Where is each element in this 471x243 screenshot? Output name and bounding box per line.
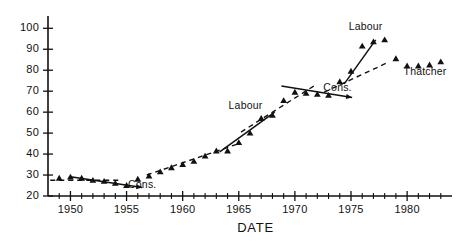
data-point-marker — [280, 97, 287, 103]
chart-plot-area: 2030405060708090100 19501955196019651970… — [0, 0, 471, 243]
y-tick-label: 80 — [26, 63, 39, 75]
annotation-label: Cons. — [323, 81, 351, 93]
x-tick-label: 1965 — [226, 203, 251, 215]
x-tick-label: 1955 — [114, 203, 139, 215]
data-point-marker — [190, 158, 197, 164]
data-markers-group — [56, 36, 444, 188]
annotation-label: Labour — [349, 20, 383, 32]
x-tick-label: 1975 — [338, 203, 363, 215]
x-tick-label: 1970 — [282, 203, 307, 215]
y-tick-label: 50 — [26, 126, 39, 138]
x-axis-title: DATE — [237, 220, 274, 235]
trend-lines-group — [50, 40, 389, 189]
trend-arrowhead — [346, 94, 352, 99]
annotation-label: Thatcher — [404, 65, 447, 77]
x-tick-label: 1960 — [170, 203, 195, 215]
chart-container: 2030405060708090100 19501955196019651970… — [0, 0, 471, 243]
y-tick-label: 70 — [26, 84, 39, 96]
data-point-marker — [56, 175, 63, 181]
data-point-marker — [381, 36, 388, 42]
data-point-marker — [258, 115, 265, 121]
y-tick-label: 60 — [26, 105, 39, 117]
y-tick-label: 40 — [26, 147, 39, 159]
data-point-marker — [437, 58, 444, 64]
y-tick-label: 90 — [26, 42, 39, 54]
annotation-label: Labour — [229, 99, 263, 111]
data-point-marker — [291, 89, 298, 95]
annotation-label: Cons. — [128, 178, 156, 190]
y-tick-label: 20 — [26, 189, 39, 201]
x-axis-tick-labels: 1950195519601965197019751980 — [58, 203, 420, 215]
x-tick-label: 1980 — [394, 203, 419, 215]
y-tick-label: 100 — [20, 21, 39, 33]
y-tick-label: 30 — [26, 168, 39, 180]
y-axis-tick-labels: 2030405060708090100 — [20, 21, 39, 201]
data-point-marker — [370, 39, 377, 45]
trend-line-solid — [344, 40, 375, 84]
data-point-marker — [392, 55, 399, 61]
data-point-marker — [359, 43, 366, 49]
trend-line-solid — [220, 112, 275, 152]
x-tick-label: 1950 — [58, 203, 83, 215]
